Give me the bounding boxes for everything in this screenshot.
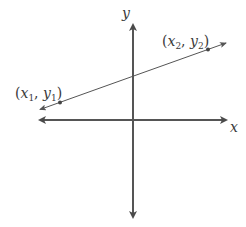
point-1-label: (x1, y1)	[15, 85, 62, 103]
x-axis-label: x	[230, 119, 238, 135]
y-axis-label: y	[121, 5, 131, 21]
coordinate-diagram: y x (x1, y1) (x2, y2)	[0, 0, 246, 227]
point-1-marker	[58, 101, 62, 105]
point-2-label: (x2, y2)	[162, 33, 209, 51]
